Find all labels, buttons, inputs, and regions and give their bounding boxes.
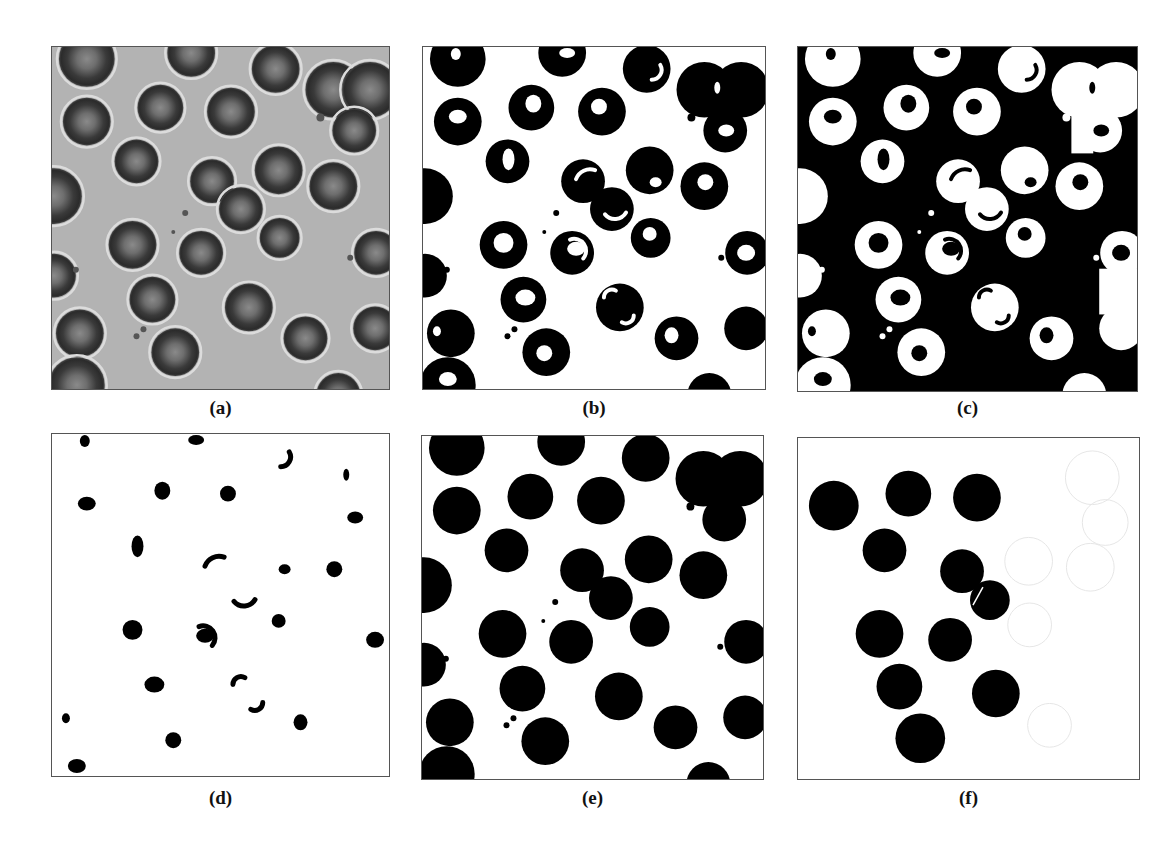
panel-a-micrograph: [51, 46, 390, 390]
caption-f: (f): [929, 787, 1009, 809]
caption-c: (c): [928, 397, 1008, 419]
caption-a: (a): [181, 397, 261, 419]
micrograph-image: [52, 47, 389, 389]
inverted-ring-image: [798, 47, 1137, 391]
selected-disk-image: [798, 438, 1139, 779]
panel-f-selected-disks: [797, 437, 1140, 780]
cell-center-image: [52, 434, 389, 776]
panel-e-filled-disks: [421, 435, 764, 780]
filled-disk-image: [422, 436, 763, 779]
panel-b-binary-rings: [422, 46, 766, 390]
panel-d-cell-centers: [51, 433, 390, 777]
caption-d: (d): [181, 787, 261, 809]
panel-c-inverted-rings: [797, 46, 1138, 392]
caption-b: (b): [554, 397, 634, 419]
caption-e: (e): [553, 787, 633, 809]
binary-ring-image: [423, 47, 765, 389]
